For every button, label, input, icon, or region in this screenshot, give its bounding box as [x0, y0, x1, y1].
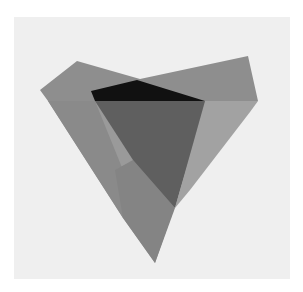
artwork-canvas	[0, 0, 303, 292]
artwork-photo	[0, 0, 303, 292]
